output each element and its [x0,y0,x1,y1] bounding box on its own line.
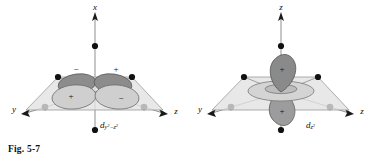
axis-label-y-right: y [197,104,202,114]
axis-label-z-up-right: z [278,2,283,12]
sign-top: + [279,64,284,74]
orbital-label-left-sup-2: 2 [116,123,119,128]
orbital-label-right: dz2 [306,120,316,131]
ligand-dot-back-right [129,74,135,80]
orbital-diagram-right: + + z y z dz2 [190,0,385,140]
ligand-dot-x-top [92,43,98,49]
sign-back-right: + [113,64,118,74]
axis-label-y: y [11,104,16,114]
sign-front-left: + [68,91,73,101]
axis-label-z: z [173,106,178,116]
ligand-dot-x-bottom [92,127,98,133]
axis-label-z-right: z [359,106,364,116]
ligand-dot-z-bottom [278,127,284,133]
figure-container: − + + − x y z dy2−z2 + [0,0,385,165]
figure-caption: Fig. 5-7 [8,144,40,154]
ligand-dot-back-right-right [315,74,321,80]
orbital-label-right-sup: 2 [313,123,316,128]
ligand-dot-z-top [278,43,284,49]
sign-back-left: − [73,64,78,74]
orbital-label-left: dy2−z2 [100,120,119,131]
axis-label-x: x [92,2,97,12]
ligand-dot-back-left-right [241,74,247,80]
orbital-diagram-left: − + + − x y z dy2−z2 [0,0,200,140]
sign-bottom: + [279,106,284,116]
sign-front-right: − [118,93,123,103]
ligand-dot-back-left [55,74,61,80]
